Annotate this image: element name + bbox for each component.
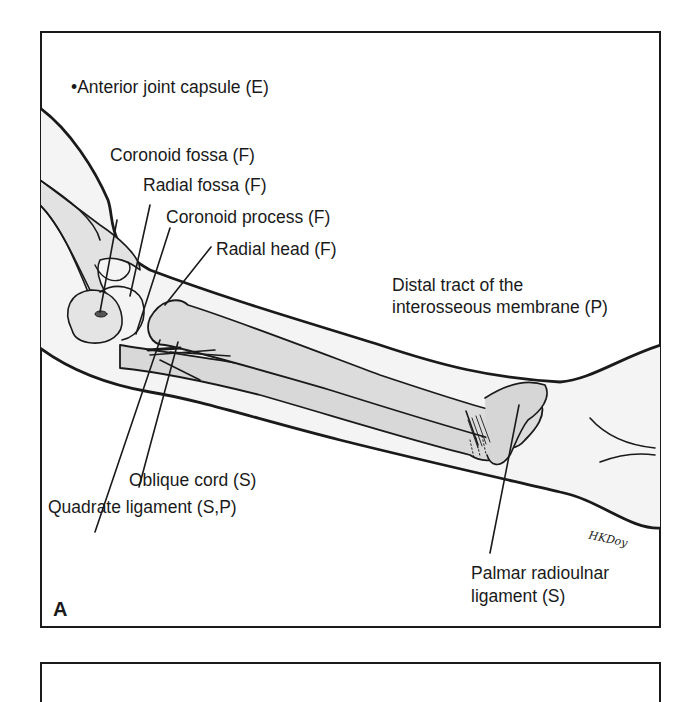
label-distal-tract-line2: interosseous membrane (P) <box>392 297 608 318</box>
coronoid-fossa-mark <box>95 311 107 317</box>
label-quadrate-ligament: Quadrate ligament (S,P) <box>48 497 237 518</box>
label-radial-head: Radial head (F) <box>216 239 337 260</box>
label-anterior-joint-capsule: •Anterior joint capsule (E) <box>71 77 269 98</box>
figure-panel-b <box>40 662 661 702</box>
label-coronoid-fossa: Coronoid fossa (F) <box>110 145 255 166</box>
label-distal-tract-line1: Distal tract of the <box>392 275 523 296</box>
label-oblique-cord: Oblique cord (S) <box>129 470 256 491</box>
label-palmar-radioulnar-line1: Palmar radioulnar <box>471 563 609 584</box>
label-palmar-radioulnar-line2: ligament (S) <box>471 586 565 607</box>
label-coronoid-process: Coronoid process (F) <box>166 207 330 228</box>
panel-letter: A <box>53 598 67 621</box>
label-radial-fossa: Radial fossa (F) <box>143 175 267 196</box>
trochlea <box>68 290 122 343</box>
artist-signature: HKDoy <box>586 528 629 549</box>
arm-outline <box>40 108 661 528</box>
